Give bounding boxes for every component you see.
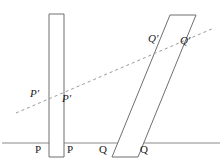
label-q-right: Q [140, 144, 148, 155]
figure-canvas [0, 0, 222, 167]
label-p-left: P [35, 144, 41, 155]
vertical-rectangle [49, 14, 64, 157]
geometry-figure: PPQQP'P'Q'Q' [0, 0, 222, 167]
label-p-prime-right: P' [62, 93, 71, 104]
label-q-left: Q [99, 144, 107, 155]
label-p-right: P [67, 144, 73, 155]
label-q-prime-right: Q' [180, 35, 190, 46]
label-q-prime-left: Q' [148, 33, 158, 44]
label-p-prime-left: P' [30, 88, 39, 99]
